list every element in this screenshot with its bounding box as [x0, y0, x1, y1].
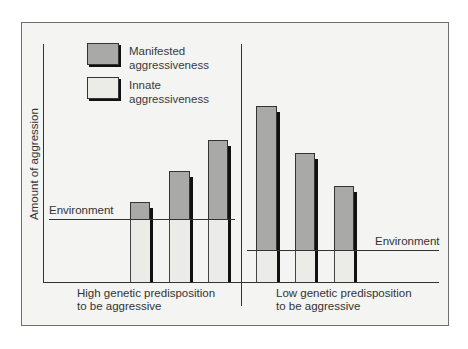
legend-swatch-innate: [87, 77, 119, 99]
left-caption: High genetic predisposition to be aggres…: [77, 287, 215, 313]
left-environment-label: Environment: [49, 204, 114, 217]
left-bar-1: [130, 202, 150, 282]
right-environment-line: [247, 250, 439, 251]
legend-label-manifested: Manifested aggressiveness: [129, 44, 209, 72]
figure-frame: [21, 22, 449, 326]
y-axis-label: Amount of aggression: [28, 108, 40, 220]
left-environment-line: [49, 219, 235, 220]
x-axis: [43, 282, 439, 283]
right-bar-1: [256, 106, 277, 282]
y-axis: [43, 44, 44, 283]
legend-label-innate: Innate aggressiveness: [129, 78, 209, 106]
legend-swatch-manifested: [87, 43, 119, 65]
left-bar-3: [208, 140, 228, 282]
right-caption: Low genetic predisposition to be aggress…: [276, 287, 412, 313]
right-bar-2: [295, 153, 315, 282]
right-environment-label: Environment: [375, 235, 440, 248]
left-bar-2: [169, 171, 190, 282]
panel-divider: [241, 44, 242, 306]
right-bar-3: [334, 186, 354, 282]
